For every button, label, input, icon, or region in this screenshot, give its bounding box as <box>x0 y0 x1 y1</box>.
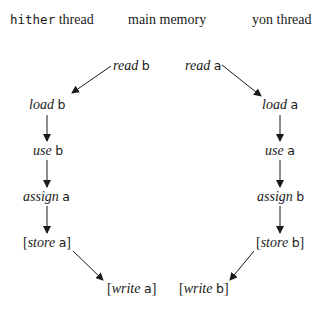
node-use-b: use b <box>33 143 63 159</box>
bracket-close: ] <box>300 235 305 250</box>
node-read-a: read a <box>185 58 221 74</box>
var-label: b <box>142 58 150 73</box>
var-label: b <box>216 281 224 296</box>
verb-label: use <box>265 143 284 158</box>
verb-label: assign <box>257 189 293 204</box>
node-read-b: read b <box>113 58 150 74</box>
header-hither-thread: hither thread <box>10 12 94 28</box>
var-label: a <box>214 58 222 73</box>
node-use-a: use a <box>265 143 295 159</box>
node-write-a: [write a] <box>107 281 156 297</box>
var-label: a <box>144 281 152 296</box>
node-assign-a: assign a <box>23 189 70 205</box>
arrow-store-b-to-write-b <box>230 251 254 280</box>
var-label: a <box>290 97 298 112</box>
verb-label: assign <box>23 189 59 204</box>
header-main-memory: main memory <box>128 12 206 28</box>
arrow-read-a-to-load-a <box>222 65 261 96</box>
header-yon-thread: yon thread <box>252 12 311 28</box>
node-store-b: [store b] <box>256 235 304 251</box>
node-load-a: load a <box>262 97 298 113</box>
var-label: b <box>296 189 304 204</box>
header-hither-rest: thread <box>55 12 93 27</box>
bracket-close: ] <box>224 281 229 296</box>
verb-label: use <box>33 143 52 158</box>
verb-label: read <box>113 58 138 73</box>
node-store-a: [store a] <box>23 235 71 251</box>
var-label: b <box>57 97 65 112</box>
arrow-store-a-to-write-a <box>73 251 103 280</box>
bracket-close: ] <box>66 235 71 250</box>
node-load-b: load b <box>29 97 65 113</box>
verb-label: write <box>184 281 213 296</box>
var-label: a <box>287 143 295 158</box>
verb-label: read <box>185 58 210 73</box>
verb-label: store <box>28 235 55 250</box>
verb-label: write <box>112 281 141 296</box>
verb-label: store <box>261 235 288 250</box>
var-label: a <box>62 189 70 204</box>
node-write-b: [write b] <box>179 281 229 297</box>
var-label: b <box>292 235 300 250</box>
var-label: b <box>55 143 63 158</box>
verb-label: load <box>262 97 287 112</box>
thread-memory-diagram: hither thread main memory yon thread rea… <box>0 0 321 313</box>
arrow-read-b-to-load-b <box>72 66 111 93</box>
header-hither-keyword: hither <box>10 12 55 27</box>
bracket-close: ] <box>152 281 157 296</box>
verb-label: load <box>29 97 54 112</box>
node-assign-b: assign b <box>257 189 304 205</box>
